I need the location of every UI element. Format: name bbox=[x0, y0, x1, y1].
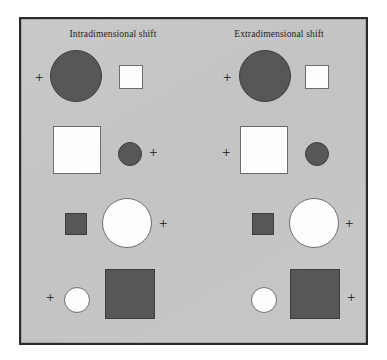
column-title-extradimensional: Extradimensional shift bbox=[199, 29, 359, 39]
plus-marker-icon: + bbox=[46, 290, 54, 305]
stimulus-dark-square-small bbox=[252, 213, 274, 235]
column-title-intradimensional: Intradimensional shift bbox=[33, 29, 193, 39]
plus-marker-icon: + bbox=[223, 70, 231, 85]
stimulus-white-circle-large bbox=[102, 198, 152, 248]
figure-panel: Intradimensional shift Extradimensional … bbox=[19, 17, 368, 345]
stimulus-white-circle-small bbox=[251, 287, 277, 313]
stimulus-dark-square-large bbox=[105, 269, 155, 319]
stimulus-white-circle-large bbox=[289, 198, 339, 248]
stimulus-dark-circle-small bbox=[118, 142, 142, 166]
plus-marker-icon: + bbox=[159, 216, 167, 231]
stimulus-white-square-large bbox=[53, 126, 101, 174]
stimulus-white-square-small bbox=[119, 65, 143, 89]
stimulus-dark-circle-large bbox=[239, 50, 291, 102]
plus-marker-icon: + bbox=[222, 145, 230, 160]
stimulus-dark-circle-large bbox=[50, 50, 102, 102]
stimulus-dark-circle-small bbox=[305, 142, 329, 166]
plus-marker-icon: + bbox=[35, 70, 43, 85]
stimulus-dark-square-large bbox=[290, 269, 340, 319]
stimulus-white-circle-small bbox=[64, 287, 90, 313]
plus-marker-icon: + bbox=[149, 145, 157, 160]
stimulus-white-square-small bbox=[305, 65, 329, 89]
plus-marker-icon: + bbox=[347, 290, 355, 305]
figure-root: Intradimensional shift Extradimensional … bbox=[0, 0, 387, 360]
stimulus-dark-square-small bbox=[65, 213, 87, 235]
stimulus-white-square-large bbox=[240, 126, 288, 174]
plus-marker-icon: + bbox=[345, 216, 353, 231]
